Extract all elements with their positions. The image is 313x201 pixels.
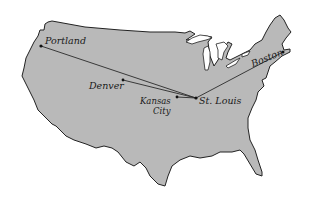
city-dot-portland bbox=[39, 44, 42, 47]
city-dot-kansas-city bbox=[176, 96, 179, 99]
us-map: Portland Denver Kansas City St. Louis Bo… bbox=[0, 0, 313, 201]
city-label-portland: Portland bbox=[44, 35, 86, 46]
city-dot-st-louis bbox=[194, 96, 197, 99]
city-label-st-louis: St. Louis bbox=[199, 95, 242, 106]
city-label-kansas-city-line2: City bbox=[153, 106, 171, 116]
city-label-kansas-city-line1: Kansas bbox=[139, 96, 171, 106]
city-label-denver: Denver bbox=[88, 80, 125, 91]
